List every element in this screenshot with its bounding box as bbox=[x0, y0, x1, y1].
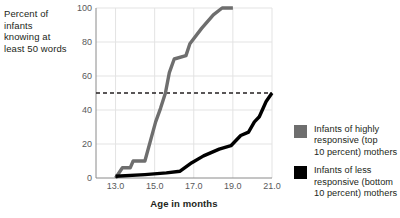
legend-label-line-1: Infants of less bbox=[314, 165, 371, 175]
legend-label-line-3: 10 percent) mothers bbox=[314, 188, 397, 198]
legend-item-less-responsive: Infants of less responsive (bottom 10 pe… bbox=[294, 165, 400, 199]
y-axis-title: Percent of infants knowing at least 50 w… bbox=[4, 8, 70, 54]
y-tick-label: 80 bbox=[66, 38, 92, 47]
plot-svg bbox=[96, 8, 272, 178]
x-tick-label: 13.0 bbox=[99, 182, 133, 191]
y-axis-title-line-3: knowing at bbox=[4, 31, 70, 43]
y-axis-title-line-4: least 50 words bbox=[4, 43, 70, 55]
x-axis-ticks: 13.0 15.0 17.0 19.0 21.0 bbox=[96, 182, 272, 194]
legend-swatch-icon bbox=[294, 125, 307, 138]
x-tick-label: 15.0 bbox=[138, 182, 172, 191]
chart-legend: Infants of highly responsive (top 10 per… bbox=[294, 124, 400, 206]
legend-label-line-1: Infants of highly bbox=[314, 124, 379, 134]
y-tick-label: 20 bbox=[66, 140, 92, 149]
y-tick-label: 0 bbox=[66, 174, 92, 183]
y-tick-label: 40 bbox=[66, 106, 92, 115]
chart-figure: Percent of infants knowing at least 50 w… bbox=[0, 0, 400, 218]
legend-item-highly-responsive: Infants of highly responsive (top 10 per… bbox=[294, 124, 400, 158]
legend-label-line-2: responsive (bottom bbox=[314, 177, 393, 187]
x-tick-label: 17.0 bbox=[177, 182, 211, 191]
legend-label-line-2: responsive (top bbox=[314, 135, 378, 145]
x-tick-label: 19.0 bbox=[216, 182, 250, 191]
y-axis-title-line-1: Percent of bbox=[4, 8, 70, 20]
y-axis-title-line-2: infants bbox=[4, 20, 70, 32]
legend-label: Infants of less responsive (bottom 10 pe… bbox=[314, 165, 397, 199]
legend-swatch-icon bbox=[294, 166, 307, 179]
x-tick-label: 21.0 bbox=[255, 182, 289, 191]
legend-label-line-3: 10 percent) mothers bbox=[314, 147, 397, 157]
legend-label: Infants of highly responsive (top 10 per… bbox=[314, 124, 397, 158]
y-tick-label: 100 bbox=[66, 4, 92, 13]
y-tick-label: 60 bbox=[66, 72, 92, 81]
x-axis-title: Age in months bbox=[96, 198, 272, 209]
plot-area bbox=[96, 8, 272, 178]
y-axis-ticks: 100 80 60 40 20 0 bbox=[66, 8, 92, 178]
